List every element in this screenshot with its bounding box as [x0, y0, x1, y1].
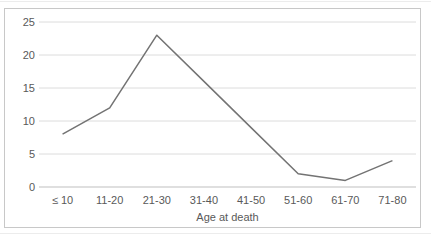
- worksheet-gridline-top: [0, 1, 431, 2]
- x-axis-tick-label: ≤ 10: [39, 194, 86, 207]
- x-axis-tick-label: 11-20: [86, 194, 133, 207]
- y-axis-tick-label: 15: [5, 82, 35, 95]
- y-axis-tick-label: 10: [5, 115, 35, 128]
- x-axis-tick-label: 51-60: [275, 194, 322, 207]
- x-axis-tick-label: 41-50: [228, 194, 275, 207]
- data-series-line[interactable]: [63, 35, 393, 180]
- y-axis-tick-label: 20: [5, 49, 35, 62]
- chart-frame[interactable]: 0510152025 ≤ 1011-2021-3031-4041-5051-60…: [4, 8, 421, 228]
- x-axis-tick-label: 71-80: [369, 194, 416, 207]
- y-axis-tick-label: 25: [5, 16, 35, 29]
- x-axis-title: Age at death: [39, 211, 416, 224]
- x-axis-tick-label: 21-30: [133, 194, 180, 207]
- x-axis-tick-label: 61-70: [322, 194, 369, 207]
- y-axis-tick-label: 5: [5, 148, 35, 161]
- chart-canvas: 0510152025 ≤ 1011-2021-3031-4041-5051-60…: [0, 0, 431, 238]
- y-axis-tick-label: 0: [5, 181, 35, 194]
- x-axis-tick-label: 31-40: [180, 194, 227, 207]
- worksheet-gridline-bottom: [0, 233, 431, 234]
